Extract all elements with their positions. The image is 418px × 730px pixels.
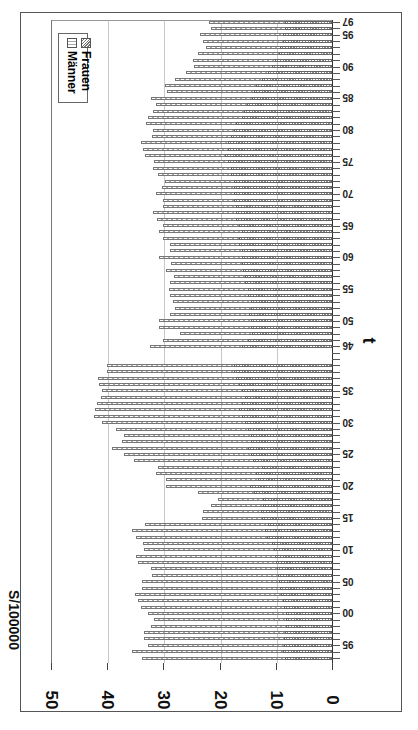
bar-frauen (247, 103, 332, 106)
bar-frauen (251, 326, 332, 329)
bar-frauen (251, 453, 332, 456)
category-tick (332, 206, 340, 207)
category-tick (332, 283, 340, 284)
bar-frauen (231, 167, 332, 170)
bar-frauen (281, 593, 332, 596)
legend-item-maenner: Männer (65, 38, 79, 94)
category-tick (332, 626, 340, 627)
legend-label: Frauen (79, 51, 93, 91)
legend-item-frauen: Frauen (79, 38, 93, 91)
bar-frauen (242, 389, 332, 392)
value-tick (51, 663, 52, 670)
bar-frauen (242, 262, 332, 265)
bar-frauen (272, 65, 332, 68)
bar-frauen (239, 408, 332, 411)
bar-frauen (245, 421, 332, 424)
category-tick (332, 47, 340, 48)
category-tick-label: 95 (338, 29, 358, 40)
category-tick (332, 143, 340, 144)
bar-frauen (234, 364, 332, 367)
bar-frauen (275, 59, 332, 62)
bar-frauen (239, 224, 332, 227)
bar-frauen (251, 300, 332, 303)
category-tick (332, 353, 340, 354)
category-tick (332, 334, 340, 335)
category-tick (332, 168, 340, 169)
value-tick-label: 10 (266, 685, 286, 715)
bar-frauen (239, 237, 332, 240)
category-tick (332, 410, 340, 411)
bar-frauen (236, 205, 332, 208)
bar-frauen (278, 574, 332, 577)
bar-frauen (244, 110, 332, 113)
category-tick (332, 86, 340, 87)
bar-frauen (228, 141, 332, 144)
bar-frauen (234, 199, 332, 202)
category-tick (332, 652, 340, 653)
bar-frauen (286, 612, 332, 615)
bar-frauen (283, 599, 332, 602)
category-tick (332, 569, 340, 570)
bar-frauen (248, 294, 332, 297)
bar-frauen (248, 288, 332, 291)
bar-frauen (285, 631, 332, 634)
category-tick (332, 480, 340, 481)
category-tick (332, 111, 340, 112)
category-tick (332, 575, 340, 576)
category-tick (332, 200, 340, 201)
bar-frauen (286, 618, 332, 621)
bar-frauen (286, 625, 332, 628)
category-tick-label: 85 (338, 92, 358, 103)
category-tick (332, 276, 340, 277)
bar-frauen (256, 472, 332, 475)
bar-frauen (239, 383, 332, 386)
bar-frauen (261, 510, 332, 513)
category-tick (332, 499, 340, 500)
bar-frauen (251, 440, 332, 443)
category-tick (332, 340, 340, 341)
value-axis-title: S/100000 (6, 590, 22, 650)
bar-frauen (243, 269, 332, 272)
bar-frauen (242, 402, 332, 405)
value-tick (332, 663, 333, 670)
bar-frauen (242, 230, 332, 233)
value-tick-label: 20 (210, 685, 230, 715)
category-tick (332, 505, 340, 506)
bar-frauen (248, 428, 332, 431)
bar-frauen (279, 52, 332, 55)
value-tick-label: 30 (153, 685, 173, 715)
bar-frauen (284, 644, 332, 647)
value-tick-label: 50 (41, 685, 61, 715)
category-tick (332, 365, 340, 366)
bar-frauen (236, 377, 332, 380)
category-tick (332, 416, 340, 417)
bar-frauen (253, 459, 332, 462)
bar-frauen (262, 466, 332, 469)
bar-frauen (251, 434, 332, 437)
category-tick (332, 232, 340, 233)
category-tick (332, 404, 340, 405)
bar-frauen (275, 555, 332, 558)
category-tick-label: 60 (338, 251, 358, 262)
category-tick (332, 620, 340, 621)
bar-frauen (252, 332, 332, 335)
bar-frauen (283, 33, 332, 36)
category-tick (332, 124, 340, 125)
bar-frauen (284, 606, 332, 609)
category-tick (332, 79, 340, 80)
frauen-swatch-icon (81, 38, 91, 48)
bar-frauen (285, 21, 332, 24)
bar-frauen (236, 122, 332, 125)
category-tick (332, 658, 340, 659)
category-tick (332, 41, 340, 42)
category-tick (332, 563, 340, 564)
bar-frauen (248, 339, 332, 342)
bar-frauen (242, 345, 332, 348)
bar-frauen (263, 504, 332, 507)
value-tick-label: 0 (322, 685, 342, 715)
bar-frauen (228, 148, 332, 151)
bar-frauen (268, 71, 332, 74)
value-tick (276, 663, 277, 670)
category-tick (332, 219, 340, 220)
category-tick (332, 28, 340, 29)
